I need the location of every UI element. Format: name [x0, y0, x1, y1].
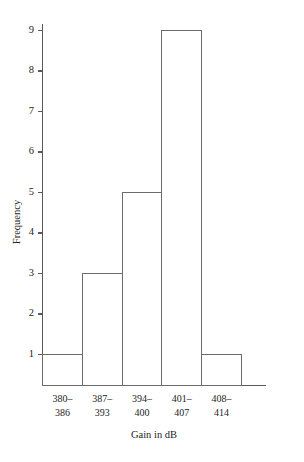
- x-label-line2: 393: [95, 407, 110, 418]
- x-label-line1: 387–: [92, 393, 113, 404]
- y-tick-label-9: 9: [29, 24, 34, 35]
- y-tick-label-4: 4: [29, 226, 35, 237]
- histogram-bar: [202, 355, 242, 386]
- y-tick-labels: 9 8 7 6 5 4 3 2 1: [29, 24, 35, 359]
- y-tick-label-8: 8: [29, 64, 34, 75]
- x-label-line1: 401–: [172, 393, 193, 404]
- histogram-bar: [82, 274, 122, 386]
- x-category-labels: 380– 386 387– 393 394– 400 401– 407 408–…: [52, 393, 232, 418]
- x-label-line2: 407: [174, 407, 189, 418]
- histogram-bar: [43, 355, 83, 386]
- x-label-line1: 394–: [132, 393, 153, 404]
- bars-group: [43, 31, 242, 386]
- histogram-bar: [162, 31, 202, 386]
- y-tick-label-2: 2: [29, 307, 34, 318]
- y-tick-marks: [38, 31, 43, 355]
- histogram-bar: [122, 193, 162, 386]
- y-tick-label-5: 5: [29, 186, 34, 197]
- y-axis-title: Frequency: [11, 199, 22, 244]
- x-axis-title: Gain in dB: [131, 429, 177, 440]
- x-label-line2: 414: [214, 407, 229, 418]
- y-tick-label-6: 6: [29, 145, 34, 156]
- y-tick-label-1: 1: [29, 348, 34, 359]
- x-label-line2: 400: [135, 407, 150, 418]
- x-label-line1: 380–: [52, 393, 73, 404]
- y-tick-label-3: 3: [29, 267, 34, 278]
- x-label-line1: 408–: [212, 393, 233, 404]
- x-label-line2: 386: [55, 407, 70, 418]
- histogram-canvas: 9 8 7 6 5 4 3 2 1 380– 386 387– 393 394–…: [0, 0, 304, 462]
- histogram-chart: 9 8 7 6 5 4 3 2 1 380– 386 387– 393 394–…: [0, 0, 304, 462]
- y-tick-label-7: 7: [29, 105, 34, 116]
